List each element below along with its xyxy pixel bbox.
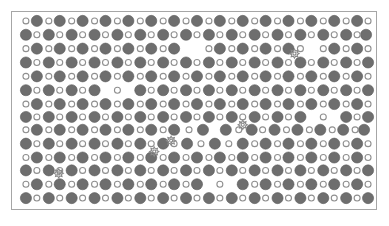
large-particle: [77, 179, 88, 190]
small-particle: [114, 127, 120, 133]
small-particle: [229, 101, 235, 107]
small-particle: [285, 60, 291, 66]
large-particle: [318, 85, 329, 96]
small-particle: [365, 141, 371, 147]
large-particle: [169, 179, 180, 190]
large-particle: [352, 138, 363, 149]
large-particle: [135, 165, 146, 176]
large-particle: [220, 124, 231, 135]
large-particle: [209, 138, 220, 149]
large-particle: [43, 29, 54, 40]
lattice-frame: [11, 11, 377, 210]
small-particle: [194, 167, 200, 173]
small-particle: [217, 60, 223, 66]
large-particle: [20, 111, 31, 122]
large-particle: [341, 57, 352, 68]
large-particle: [341, 165, 352, 176]
large-particle: [226, 29, 237, 40]
large-particle: [358, 124, 369, 135]
small-particle: [92, 127, 98, 133]
large-particle: [146, 124, 157, 135]
large-particle: [112, 111, 123, 122]
large-particle: [135, 111, 146, 122]
large-particle: [197, 124, 208, 135]
large-particle: [329, 138, 340, 149]
small-particle: [46, 73, 52, 79]
large-particle: [283, 71, 294, 82]
small-particle: [69, 73, 75, 79]
small-particle: [329, 127, 335, 133]
small-particle: [297, 181, 303, 187]
small-particle: [275, 181, 281, 187]
small-particle: [297, 141, 303, 147]
large-particle: [169, 99, 180, 110]
small-particle: [365, 181, 371, 187]
large-particle: [338, 124, 349, 135]
small-particle: [46, 155, 52, 161]
small-particle: [46, 127, 52, 133]
large-particle: [146, 71, 157, 82]
large-particle: [158, 57, 169, 68]
large-particle: [31, 124, 42, 135]
small-particle: [23, 18, 29, 24]
large-particle: [54, 179, 65, 190]
large-particle: [43, 165, 54, 176]
small-particle: [354, 195, 360, 201]
small-particle: [80, 87, 86, 93]
large-particle: [191, 15, 202, 26]
small-particle: [92, 155, 98, 161]
small-particle: [354, 60, 360, 66]
small-particle: [160, 127, 166, 133]
large-particle: [100, 15, 111, 26]
large-particle: [169, 124, 180, 135]
small-particle: [217, 114, 223, 120]
large-particle: [295, 165, 306, 176]
large-particle: [272, 29, 283, 40]
small-particle: [229, 73, 235, 79]
small-particle: [103, 141, 109, 147]
large-particle: [146, 15, 157, 26]
small-particle: [320, 141, 326, 147]
small-particle: [125, 167, 131, 173]
small-particle: [252, 155, 258, 161]
large-particle: [272, 57, 283, 68]
large-particle: [283, 152, 294, 163]
small-particle: [148, 141, 154, 147]
large-particle: [283, 15, 294, 26]
small-particle: [46, 46, 52, 52]
large-particle: [89, 57, 100, 68]
small-particle: [217, 87, 223, 93]
large-particle: [272, 165, 283, 176]
large-particle: [77, 71, 88, 82]
small-particle: [306, 127, 312, 133]
small-particle: [198, 141, 204, 147]
small-particle: [308, 87, 314, 93]
small-particle: [92, 181, 98, 187]
small-particle: [217, 195, 223, 201]
small-particle: [217, 181, 223, 187]
small-particle: [217, 167, 223, 173]
small-particle: [160, 101, 166, 107]
small-particle: [206, 18, 212, 24]
large-particle: [31, 179, 42, 190]
large-particle: [214, 152, 225, 163]
small-particle: [263, 60, 269, 66]
small-particle: [148, 114, 154, 120]
large-particle: [54, 99, 65, 110]
small-particle: [125, 32, 131, 38]
large-particle: [237, 71, 248, 82]
small-particle: [229, 155, 235, 161]
small-particle: [171, 32, 177, 38]
large-particle: [295, 85, 306, 96]
small-particle: [57, 32, 63, 38]
large-particle: [100, 71, 111, 82]
large-particle: [100, 124, 111, 135]
large-particle: [226, 165, 237, 176]
small-particle: [103, 114, 109, 120]
lattice-canvas: [12, 12, 376, 209]
small-particle: [365, 46, 371, 52]
small-particle: [263, 32, 269, 38]
large-particle: [362, 111, 373, 122]
small-particle: [171, 60, 177, 66]
large-particle: [360, 29, 371, 40]
